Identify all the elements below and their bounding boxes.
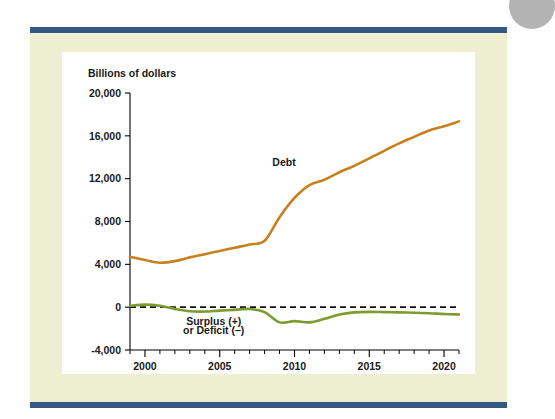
x-tick-label: 2000 [133, 360, 157, 372]
y-tick-label: 20,000 [89, 87, 121, 99]
corner-decoration-circle [509, 0, 555, 29]
x-tick-label: 2020 [432, 360, 456, 372]
y-tick-label: 0 [115, 301, 121, 313]
series-line-debt [130, 121, 459, 262]
x-tick-label: 2010 [283, 360, 307, 372]
y-tick-label: 12,000 [89, 172, 121, 184]
line-chart: -4,00004,0008,00012,00016,00020,00020002… [30, 27, 507, 408]
y-tick-label: 8,000 [95, 215, 121, 227]
annotation-deficit-label: or Deficit (–) [183, 324, 244, 336]
y-tick-label: 4,000 [95, 258, 121, 270]
y-tick-label: 16,000 [89, 130, 121, 142]
y-axis-title: Billions of dollars [88, 67, 176, 79]
figure-frame: -4,00004,0008,00012,00016,00020,00020002… [30, 27, 507, 408]
x-tick-label: 2005 [208, 360, 232, 372]
y-tick-label: -4,000 [91, 344, 121, 356]
annotation-debt-label: Debt [272, 156, 296, 168]
x-tick-label: 2015 [358, 360, 382, 372]
